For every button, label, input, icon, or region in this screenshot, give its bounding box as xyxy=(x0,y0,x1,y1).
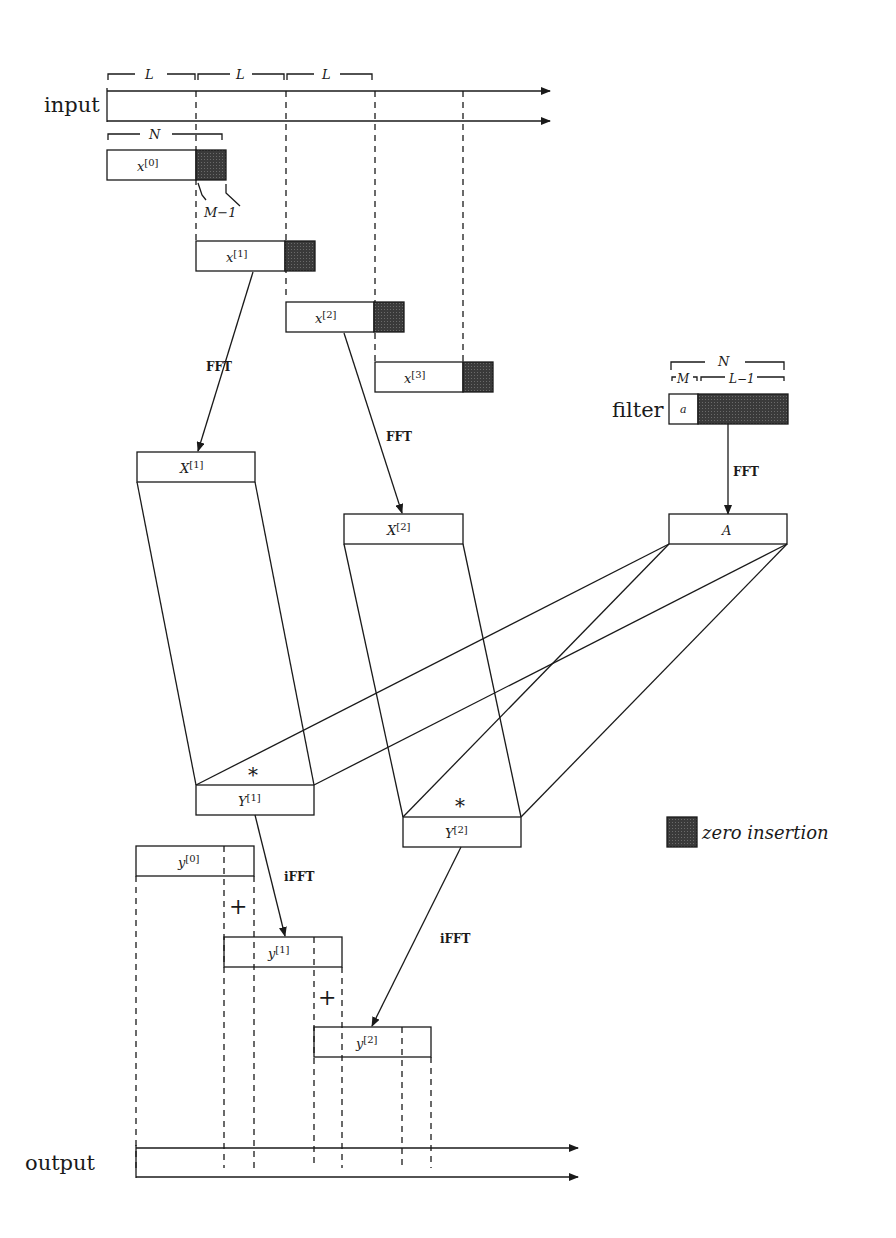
ifft-label-1: iFFT xyxy=(284,870,315,884)
input-axis xyxy=(107,88,550,122)
zero-pad-x1 xyxy=(285,241,315,271)
fft-label-2: FFT xyxy=(386,430,412,444)
fft-label-filter: FFT xyxy=(733,465,759,479)
fft-arrow-2 xyxy=(344,333,402,513)
filter-zero-pad xyxy=(698,394,788,424)
multiply-star-2: * xyxy=(455,794,465,818)
N-label: N xyxy=(148,127,161,142)
zero-pad-x3 xyxy=(463,362,493,392)
zero-pad-x0 xyxy=(196,150,226,180)
filter-label: filter xyxy=(612,398,665,422)
filter-M-label: M xyxy=(676,372,690,386)
A-label: A xyxy=(721,523,731,538)
input-label: input xyxy=(44,93,100,117)
fft-label-1: FFT xyxy=(206,360,232,374)
zero-pad-x2 xyxy=(374,302,404,332)
filter-a-label: a xyxy=(680,403,687,416)
N-bracket xyxy=(108,134,222,140)
L-label-1: L xyxy=(144,67,154,82)
output-label: output xyxy=(25,1151,96,1175)
filter-N-label: N xyxy=(717,354,730,369)
ifft-label-2: iFFT xyxy=(440,932,471,946)
ifft-arrow-1 xyxy=(255,815,285,936)
fft-convolution-diagram: input output filter L L L N M−1 N M L−1 … xyxy=(0,0,896,1238)
add-plus-2: + xyxy=(318,985,336,1010)
legend-zero-insertion-label: zero insertion xyxy=(701,822,829,843)
multiply-star-1: * xyxy=(248,763,258,787)
L-label-2: L xyxy=(235,67,245,82)
output-guides xyxy=(136,846,431,1168)
output-axis xyxy=(136,1145,578,1178)
M-1-label: M−1 xyxy=(203,205,236,220)
M-1-indicator xyxy=(198,183,240,206)
add-plus-1: + xyxy=(229,894,247,919)
filter-L-1-label: L−1 xyxy=(728,372,755,386)
L-label-3: L xyxy=(321,67,331,82)
legend-zero-insertion-swatch xyxy=(667,817,697,847)
